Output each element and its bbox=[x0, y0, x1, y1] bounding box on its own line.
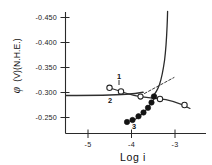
series-3-point-4 bbox=[145, 105, 150, 110]
series-1-point-1 bbox=[118, 89, 123, 94]
tangent-dashed-line bbox=[145, 78, 175, 94]
series-1-label: 1 bbox=[117, 72, 121, 81]
x-tick-label-1: -4 bbox=[128, 140, 135, 149]
series-3-line bbox=[131, 95, 156, 121]
series-1-point-3 bbox=[157, 96, 162, 101]
series-1-point-2 bbox=[138, 94, 143, 99]
y-axis-tick-labels: -0.450 -0.400 -0.350 -0.300 -0.250 bbox=[35, 13, 57, 122]
series-1-markers bbox=[107, 85, 187, 108]
x-axis-title: Log i bbox=[120, 151, 146, 163]
steep-rise-curve bbox=[153, 12, 168, 97]
y-axis-title: φ (V)(N.H.E.) bbox=[10, 38, 23, 93]
chart-canvas: -0.450 -0.400 -0.350 -0.300 -0.250 -5 -4… bbox=[0, 0, 212, 165]
y-tick-label-2: -0.350 bbox=[35, 63, 57, 72]
series-3-point-6 bbox=[151, 94, 157, 100]
series-1-point-4 bbox=[182, 102, 187, 107]
y-tick-label-1: -0.400 bbox=[35, 38, 57, 47]
y-tick-label-3: -0.300 bbox=[35, 88, 57, 97]
series-1-point-0 bbox=[107, 85, 112, 90]
series-3-point-2 bbox=[136, 114, 141, 119]
y-tick-label-0: -0.450 bbox=[35, 13, 57, 22]
y-axis-title-symbol: φ bbox=[10, 86, 23, 93]
series-3-point-0 bbox=[124, 119, 129, 124]
x-tick-label-2: -3 bbox=[172, 140, 179, 149]
series-3-label: 3 bbox=[132, 122, 136, 131]
y-tick-label-4: -0.250 bbox=[35, 113, 57, 122]
series-3-point-5 bbox=[149, 100, 154, 105]
polarization-curve-figure: -0.450 -0.400 -0.350 -0.300 -0.250 -5 -4… bbox=[0, 0, 212, 165]
x-tick-label-0: -5 bbox=[85, 140, 92, 149]
y-axis-title-units: (V)(N.H.E.) bbox=[12, 38, 22, 82]
x-axis-tick-labels: -5 -4 -3 bbox=[85, 140, 179, 149]
series-3-point-3 bbox=[141, 110, 146, 115]
series-2-label: 2 bbox=[108, 96, 112, 105]
